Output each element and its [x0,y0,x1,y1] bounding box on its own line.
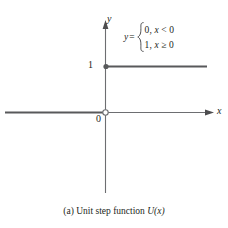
case-condition-rest: < 0 [159,25,174,35]
case-value: 0, [145,25,152,35]
plot-canvas [0,0,228,228]
unit-step-function-figure: y x 1 0 y = 0, x < 0 1, x ≥ 0 (a) Unit s… [0,0,228,228]
caption-prefix: (a) Unit step function [63,206,147,216]
x-axis-label: x [217,106,221,116]
equation-cases: 0, x < 0 1, x ≥ 0 [144,25,174,50]
piecewise-equation: y = 0, x < 0 1, x ≥ 0 [124,22,174,52]
equation-equals-sign: = [129,32,136,42]
origin-label: 0 [96,114,101,124]
y-axis-label: y [107,14,111,24]
x-axis-arrowhead [205,110,214,116]
closed-endpoint-marker [103,64,108,69]
equation-case-row: 1, x ≥ 0 [145,40,174,50]
equation-case-row: 0, x < 0 [145,25,174,35]
case-condition-rest: ≥ 0 [159,40,174,50]
caption-function-arg: (x) [154,206,165,216]
case-value: 1, [145,40,152,50]
open-endpoint-marker [103,110,108,115]
y-tick-label-1: 1 [88,60,93,70]
figure-caption: (a) Unit step function U(x) [0,206,228,216]
left-curly-brace-icon [137,22,144,52]
